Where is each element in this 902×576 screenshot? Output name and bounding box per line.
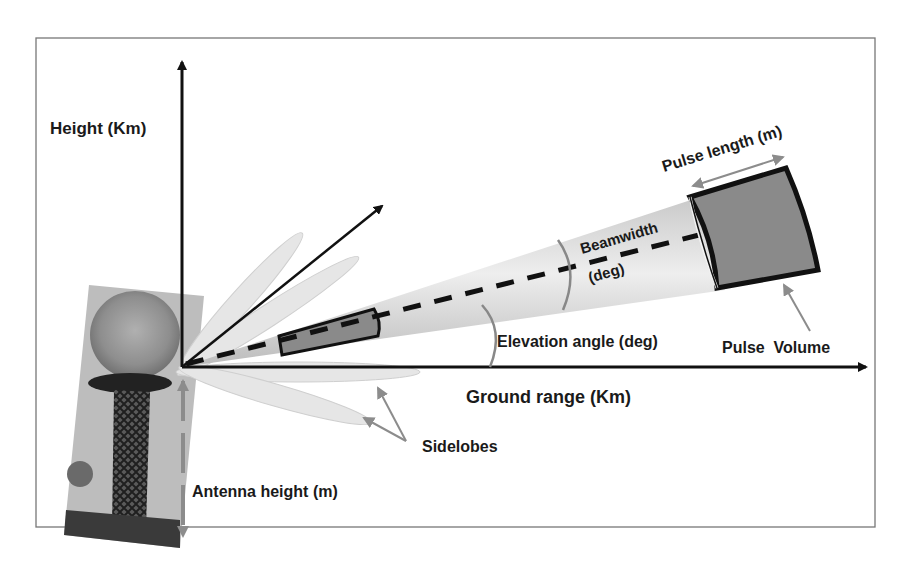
x-axis-label: Ground range (Km) xyxy=(466,387,631,407)
pulse-volume-label: Pulse Volume xyxy=(722,339,830,356)
y-axis-label: Height (Km) xyxy=(50,119,146,138)
tree xyxy=(67,461,93,487)
lattice-tower xyxy=(112,390,150,528)
radome xyxy=(90,291,180,379)
elevation-angle-label: Elevation angle (deg) xyxy=(497,333,658,350)
radar-beam-diagram: Height (Km) Ground range (Km) Pulse leng… xyxy=(0,0,902,576)
antenna-height-label: Antenna height (m) xyxy=(192,483,338,500)
sidelobes-label: Sidelobes xyxy=(422,438,498,455)
radome-base xyxy=(88,373,172,393)
